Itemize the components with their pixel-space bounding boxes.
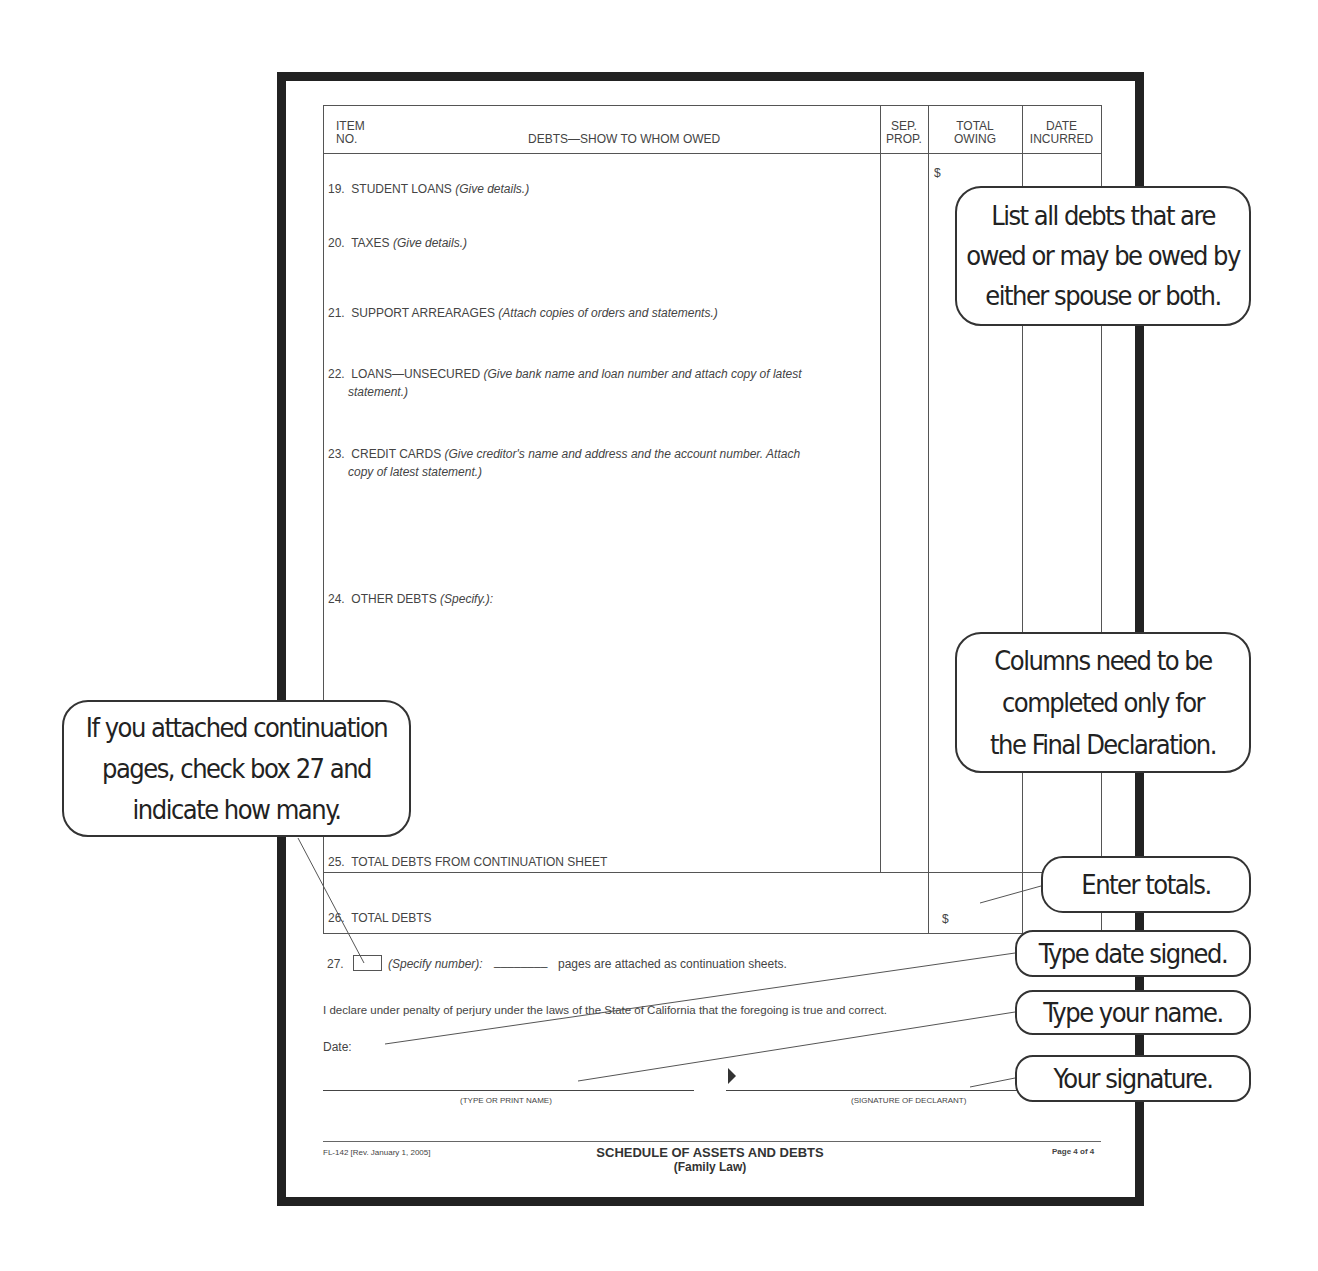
callout-enter-totals: Enter totals. [1041,856,1251,913]
callout-line: the Final Declaration. [990,724,1216,766]
callout-continuation-pages: If you attached continuation pages, chec… [62,700,411,837]
callout-list-debts: List all debts that are owed or may be o… [955,186,1251,326]
callout-type-date: Type date signed. [1015,930,1251,977]
callout-line: If you attached continuation [86,707,388,748]
callout-columns-final-declaration: Columns need to be completed only for th… [955,632,1251,773]
callout-line: pages, check box 27 and [86,748,388,789]
callout-line: Columns need to be [990,640,1216,682]
callout-type-name: Type your name. [1015,990,1251,1035]
callout-your-signature: Your signature. [1015,1055,1251,1102]
callout-line: owed or may be owed by [966,236,1240,276]
callout-line: either spouse or both. [966,276,1240,316]
callout-line: indicate how many. [86,789,388,830]
callout-line: completed only for [990,682,1216,724]
callout-line: List all debts that are [966,196,1240,236]
